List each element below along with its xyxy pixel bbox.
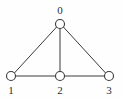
- node-1: [7, 72, 16, 81]
- edge-0-3: [63, 27, 105, 73]
- node-label-3: 3: [102, 85, 116, 96]
- node-label-2: 2: [53, 85, 67, 96]
- edge-0-1: [14, 27, 56, 73]
- node-3: [105, 72, 114, 81]
- node-2: [56, 72, 65, 81]
- node-0: [56, 20, 65, 29]
- node-label-1: 1: [4, 85, 18, 96]
- edge-group: [14, 27, 105, 76]
- node-label-0: 0: [53, 5, 67, 16]
- graph-diagram: 0123: [0, 0, 122, 100]
